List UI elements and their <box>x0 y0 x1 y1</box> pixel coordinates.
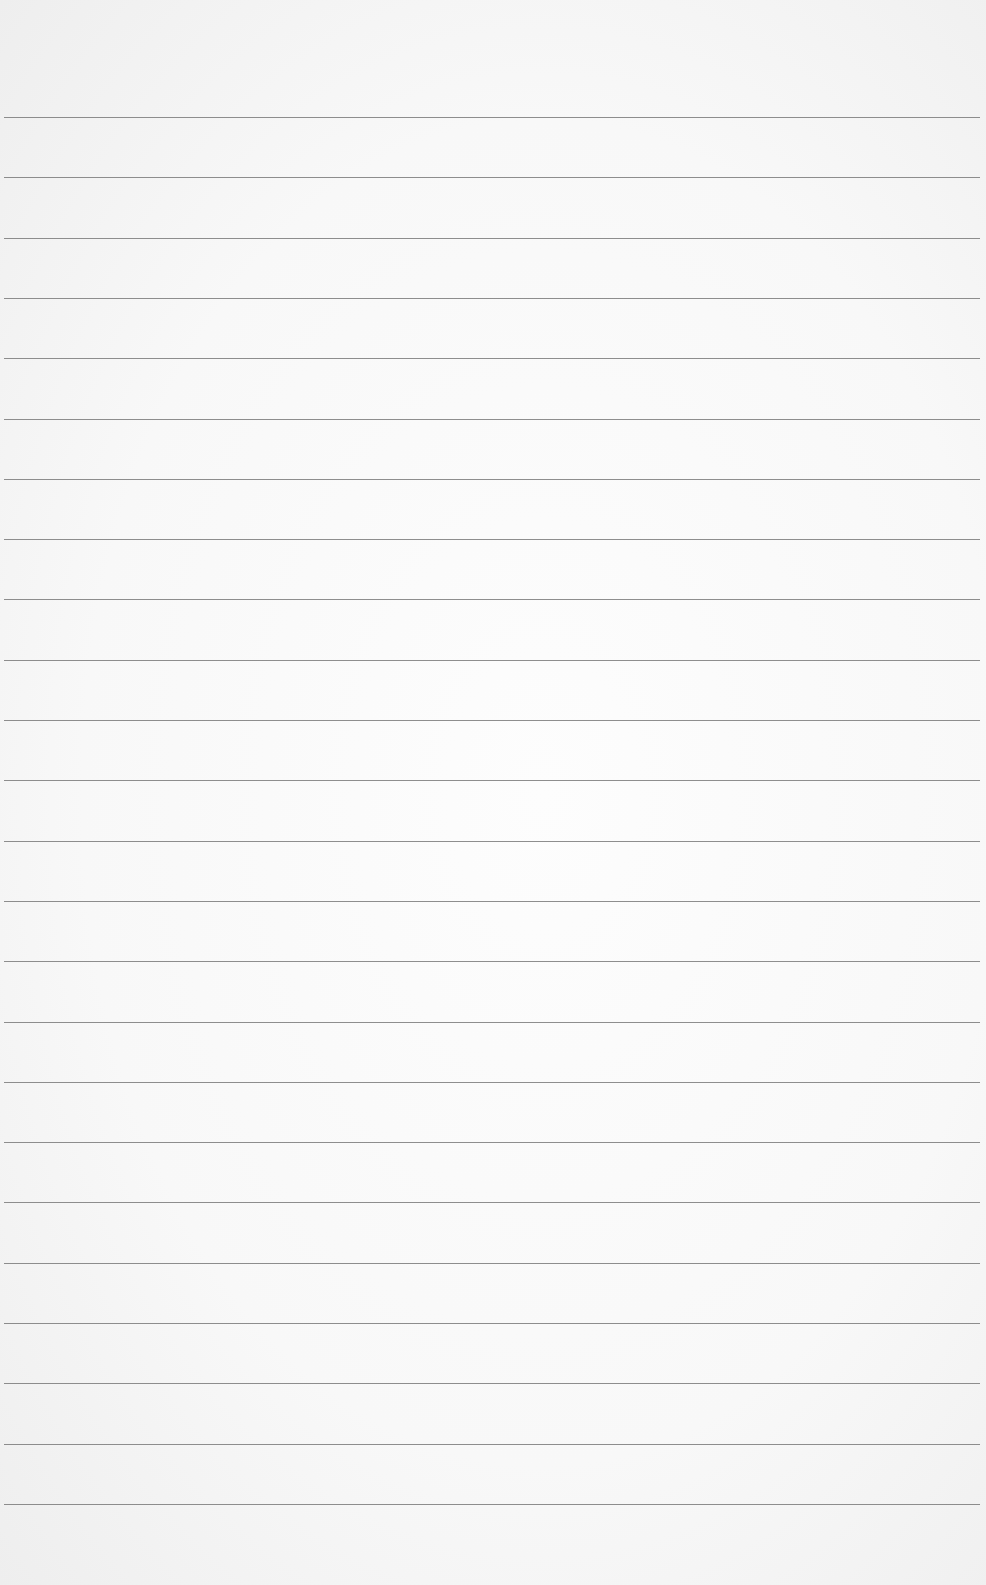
ruled-line <box>4 1383 980 1384</box>
lined-paper-sheet <box>0 0 986 1585</box>
ruled-line <box>4 238 980 239</box>
ruled-line <box>4 1263 980 1264</box>
ruled-line <box>4 479 980 480</box>
ruled-line <box>4 298 980 299</box>
ruled-line <box>4 841 980 842</box>
ruled-line <box>4 1323 980 1324</box>
ruled-line <box>4 1504 980 1505</box>
ruled-line <box>4 1444 980 1445</box>
ruled-line <box>4 1142 980 1143</box>
ruled-line <box>4 419 980 420</box>
ruled-line <box>4 780 980 781</box>
ruled-line <box>4 1202 980 1203</box>
ruled-line <box>4 177 980 178</box>
ruled-line <box>4 901 980 902</box>
ruled-line <box>4 599 980 600</box>
ruled-line <box>4 1022 980 1023</box>
ruled-line <box>4 961 980 962</box>
ruled-line <box>4 720 980 721</box>
ruled-line <box>4 358 980 359</box>
ruled-line <box>4 1082 980 1083</box>
ruled-line <box>4 539 980 540</box>
ruled-line <box>4 660 980 661</box>
ruled-line <box>4 117 980 118</box>
